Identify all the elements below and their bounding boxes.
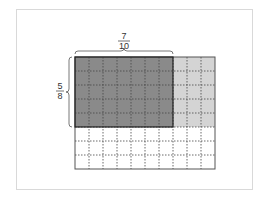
area-model-diagram: 7 10 5 8 <box>0 0 261 197</box>
left-brace-icon <box>66 57 72 127</box>
left-fraction-numerator: 5 <box>57 81 62 91</box>
left-fraction-denominator: 8 <box>57 91 62 101</box>
top-fraction-denominator: 10 <box>119 41 129 51</box>
top-fraction-numerator: 7 <box>121 31 126 41</box>
dark-shaded-region <box>75 57 173 127</box>
